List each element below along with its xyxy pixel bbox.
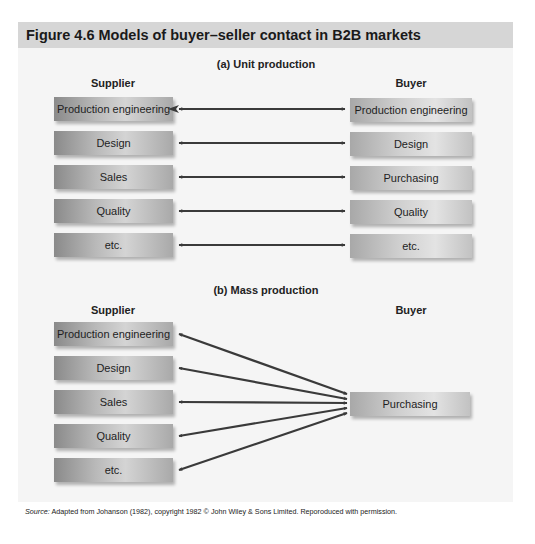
connection-arrows [0, 0, 535, 544]
double-arrow-icon [179, 334, 347, 394]
double-arrow-icon [179, 402, 347, 403]
double-arrow-icon [179, 368, 347, 399]
source-label: Source: [25, 507, 50, 516]
source-note: Source: Adapted from Johanson (1982), co… [25, 507, 397, 516]
source-text: Adapted from Johanson (1982), copyright … [50, 507, 397, 516]
